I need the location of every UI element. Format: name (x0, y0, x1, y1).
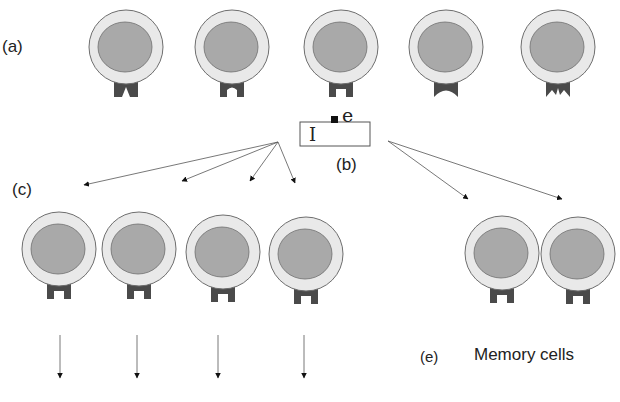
cell-nucleus (550, 229, 604, 279)
row-a-lymphocytes (89, 10, 595, 97)
label-e: (e) (420, 348, 438, 365)
cell-nucleus (195, 227, 249, 277)
label-c: (c) (12, 180, 32, 200)
cell-nucleus (98, 22, 152, 72)
lymphocyte-4 (409, 10, 483, 97)
lymphocyte-5 (521, 10, 595, 97)
lymphocyte-3 (304, 10, 378, 97)
lymphocyte-2 (195, 10, 269, 97)
memory-cell-2 (541, 217, 615, 304)
proliferation-arrows (84, 141, 562, 199)
differentiation-arrows (60, 335, 304, 378)
cell-nucleus (313, 22, 367, 72)
cell-nucleus (418, 22, 472, 72)
lymphocyte-1 (89, 10, 163, 97)
clonal-selection-diagram (0, 0, 620, 402)
clone-cell-4 (269, 217, 343, 304)
box-label: I (309, 124, 316, 145)
cell-nucleus (31, 224, 85, 274)
memory-cells-label: Memory cells (474, 345, 574, 365)
clone-cell-2 (102, 212, 176, 299)
memory-cell-1 (465, 216, 539, 303)
antigen-label: e (342, 104, 353, 126)
cell-nucleus (474, 228, 528, 278)
cell-nucleus (111, 224, 165, 274)
cell-nucleus (530, 22, 584, 72)
antigen-marker-icon (331, 116, 338, 123)
label-b: (b) (336, 155, 357, 175)
memory-cell-group (465, 216, 615, 304)
cell-nucleus (278, 229, 332, 279)
clone-cell-1 (22, 212, 96, 299)
cell-nucleus (204, 22, 258, 72)
label-a: (a) (2, 37, 23, 57)
clone-cell-3 (186, 215, 260, 302)
clone-cells (22, 212, 343, 304)
